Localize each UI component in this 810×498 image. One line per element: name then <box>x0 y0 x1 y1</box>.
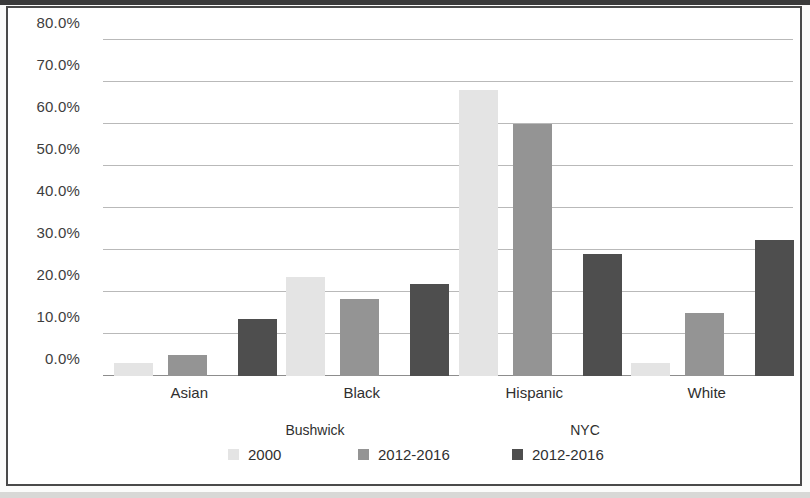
y-tick-label-70: 70.0% <box>0 56 80 73</box>
bar-hispanic-bushwick-2000[interactable] <box>459 90 498 376</box>
bar-white-bushwick-2012-2016[interactable] <box>685 313 724 376</box>
x-category-label-asian: Asian <box>94 384 284 401</box>
legend-item-bushwick-2012-2016[interactable]: 2012-2016 <box>358 446 450 463</box>
bar-group-white <box>631 40 794 376</box>
legend-group-title-bushwick: Bushwick <box>255 422 375 438</box>
bar-hispanic-nyc-2012-2016[interactable] <box>583 254 622 376</box>
legend-item-bushwick-2000[interactable]: 2000 <box>228 446 281 463</box>
figure-canvas: 80.0%70.0%60.0%50.0%40.0%30.0%20.0%10.0%… <box>0 0 810 498</box>
legend-label-bushwick-2012-2016: 2012-2016 <box>378 446 450 463</box>
bar-group-black <box>286 40 449 376</box>
y-tick-label-40: 40.0% <box>0 182 80 199</box>
legend-label-nyc-2012-2016: 2012-2016 <box>532 446 604 463</box>
legend-item-nyc-2012-2016[interactable]: 2012-2016 <box>512 446 604 463</box>
chart-legend: Bushwick NYC 2000 2012-2016 2012-2016 <box>0 420 810 480</box>
legend-swatch-bushwick-2000 <box>228 449 239 460</box>
bar-black-nyc-2012-2016[interactable] <box>410 284 449 376</box>
plot-area: 80.0%70.0%60.0%50.0%40.0%30.0%20.0%10.0%… <box>103 40 793 376</box>
bar-asian-bushwick-2000[interactable] <box>114 363 153 376</box>
bar-group-hispanic <box>459 40 622 376</box>
y-tick-label-30: 30.0% <box>0 224 80 241</box>
y-tick-label-50: 50.0% <box>0 140 80 157</box>
x-category-label-hispanic: Hispanic <box>439 384 629 401</box>
x-category-label-black: Black <box>267 384 457 401</box>
bar-black-bushwick-2000[interactable] <box>286 277 325 376</box>
y-tick-label-10: 10.0% <box>0 308 80 325</box>
bar-white-nyc-2012-2016[interactable] <box>755 240 794 376</box>
y-tick-label-60: 60.0% <box>0 98 80 115</box>
y-tick-label-0: 0.0% <box>0 350 80 367</box>
x-category-label-white: White <box>612 384 802 401</box>
y-tick-label-80: 80.0% <box>0 14 80 31</box>
bar-hispanic-bushwick-2012-2016[interactable] <box>513 124 552 376</box>
legend-label-bushwick-2000: 2000 <box>248 446 281 463</box>
bar-group-asian <box>114 40 277 376</box>
y-tick-label-20: 20.0% <box>0 266 80 283</box>
bar-asian-nyc-2012-2016[interactable] <box>238 319 277 376</box>
bar-asian-bushwick-2012-2016[interactable] <box>168 355 207 376</box>
legend-swatch-bushwick-2012-2016 <box>358 449 369 460</box>
legend-swatch-nyc-2012-2016 <box>512 449 523 460</box>
bar-white-bushwick-2000[interactable] <box>631 363 670 376</box>
bar-black-bushwick-2012-2016[interactable] <box>340 299 379 376</box>
legend-group-title-nyc: NYC <box>525 422 645 438</box>
